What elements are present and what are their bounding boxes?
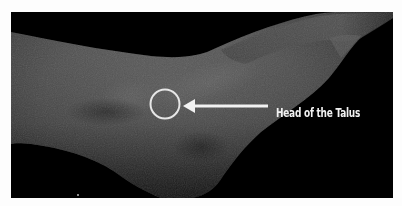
speck [77,194,79,196]
foot-illustration [11,12,393,198]
foot-photograph: Head of the Talus [11,12,393,198]
annotation-label: Head of the Talus [276,106,360,120]
